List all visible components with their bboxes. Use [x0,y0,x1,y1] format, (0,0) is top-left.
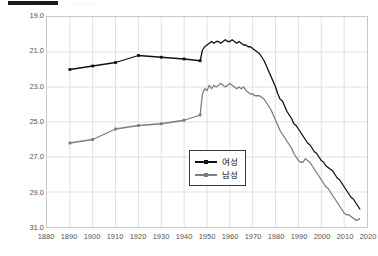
cropped-header-strip: ········ [0,0,378,9]
legend-line-marker-icon [195,170,217,180]
x-tick-label: 1980 [268,232,285,241]
x-tick-label: 1920 [130,232,147,241]
x-tick-label: 1900 [84,232,101,241]
y-tick-label: 27.0 [0,153,44,161]
y-tick-label: 31.0 [0,224,44,232]
x-tick-label: 1990 [291,232,308,241]
y-tick-label: 25.0 [0,118,44,126]
legend-label: 남성 [222,170,238,180]
chart-screenshot: ········ 19.021.023.025.027.029.031.0 18… [0,0,378,256]
legend-item: 여성 [195,155,238,168]
y-tick-label: 19.0 [0,12,44,20]
y-axis-labels: 19.021.023.025.027.029.031.0 [0,16,44,228]
legend-label: 여성 [222,157,238,167]
x-axis-labels: 1880189019001910192019301940195019601970… [46,230,368,244]
x-tick-label: 2000 [314,232,331,241]
x-tick-label: 1960 [222,232,239,241]
legend-item: 남성 [195,168,238,181]
y-tick-label: 29.0 [0,189,44,197]
x-tick-label: 1950 [199,232,216,241]
x-tick-label: 1910 [107,232,124,241]
x-tick-label: 2010 [337,232,354,241]
plot-area [46,16,368,228]
data-series-layer [47,17,367,227]
y-tick-label: 23.0 [0,83,44,91]
line-chart: 19.021.023.025.027.029.031.0 18801890190… [0,9,378,256]
legend-line-marker-icon [195,157,217,167]
x-tick-label: 2020 [360,232,377,241]
chart-legend: 여성남성 [189,150,246,186]
x-tick-label: 1970 [245,232,262,241]
x-tick-label: 1940 [176,232,193,241]
y-tick-label: 21.0 [0,47,44,55]
x-tick-label: 1890 [61,232,78,241]
header-ghost-text: ········ [72,1,134,5]
header-black-bar [8,1,58,5]
x-tick-label: 1930 [153,232,170,241]
x-tick-label: 1880 [38,232,55,241]
